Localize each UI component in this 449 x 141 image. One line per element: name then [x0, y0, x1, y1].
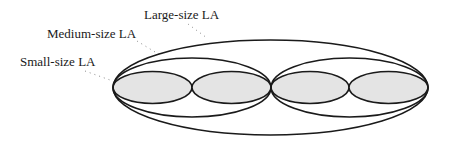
small-size-la-ellipse: [113, 72, 192, 104]
leader-line-small: [85, 71, 110, 80]
label-small-size-la: Small-size LA: [20, 54, 96, 69]
small-size-la-ellipse: [192, 72, 271, 104]
location-area-diagram: Large-size LA Medium-size LA Small-size …: [0, 0, 449, 141]
small-size-la-ellipse: [349, 72, 428, 104]
label-medium-size-la: Medium-size LA: [47, 26, 137, 41]
label-large-size-la: Large-size LA: [144, 7, 220, 22]
small-size-la-ellipse: [271, 72, 349, 104]
leader-line-large: [188, 24, 207, 38]
leader-line-medium: [137, 41, 160, 55]
